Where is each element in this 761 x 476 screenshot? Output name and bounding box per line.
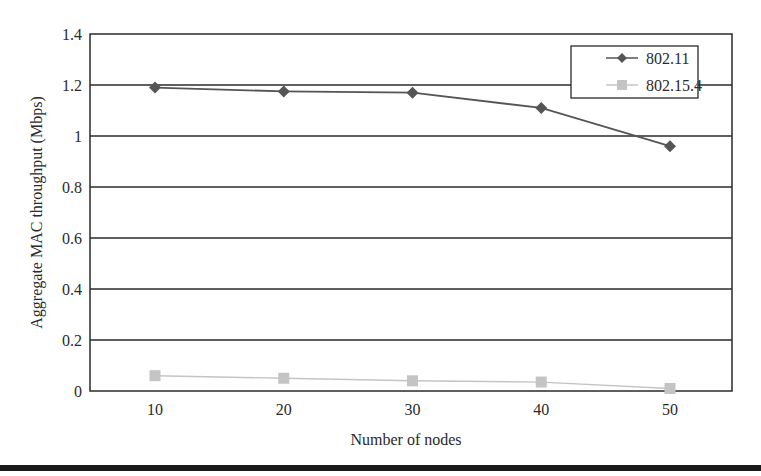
x-tick-label: 30 <box>405 401 421 418</box>
line-chart: 00.20.40.60.811.21.4 1020304050 Aggregat… <box>0 0 761 476</box>
y-axis-ticks: 00.20.40.60.811.21.4 <box>62 26 82 400</box>
x-tick-label: 40 <box>533 401 549 418</box>
x-axis-title: Number of nodes <box>350 431 461 448</box>
legend-label: 802.15.4 <box>646 77 702 94</box>
legend: 802.11 802.15.4 <box>571 46 702 98</box>
y-tick-label: 0.6 <box>62 230 82 247</box>
y-tick-label: 0 <box>74 383 82 400</box>
y-tick-label: 0.4 <box>62 281 82 298</box>
y-tick-label: 1 <box>74 128 82 145</box>
diamond-marker-icon <box>535 102 547 114</box>
x-axis-ticks: 1020304050 <box>147 401 678 418</box>
diamond-marker-icon <box>149 82 161 94</box>
square-marker-icon <box>665 383 676 394</box>
square-marker-icon <box>150 370 161 381</box>
page-divider <box>0 465 761 471</box>
x-tick-label: 10 <box>147 401 163 418</box>
square-marker-icon <box>536 377 547 388</box>
square-marker-icon <box>617 80 627 90</box>
y-tick-label: 0.2 <box>62 332 82 349</box>
diamond-marker-icon <box>278 85 290 97</box>
gridlines <box>90 85 732 340</box>
y-tick-label: 0.8 <box>62 179 82 196</box>
y-axis-title: Aggregate MAC throughput (Mbps) <box>28 96 46 328</box>
square-marker-icon <box>278 373 289 384</box>
legend-label: 802.11 <box>646 50 689 67</box>
diamond-marker-icon <box>664 140 676 152</box>
square-marker-icon <box>407 375 418 386</box>
y-tick-label: 1.2 <box>62 77 82 94</box>
x-tick-label: 20 <box>276 401 292 418</box>
y-tick-label: 1.4 <box>62 26 82 43</box>
diamond-marker-icon <box>407 87 419 99</box>
x-tick-label: 50 <box>662 401 678 418</box>
